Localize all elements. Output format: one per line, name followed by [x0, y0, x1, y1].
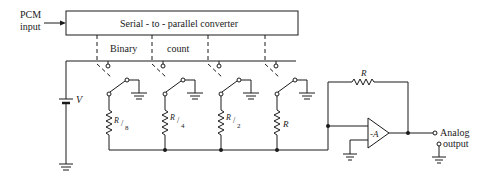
switch-stage-3 [208, 35, 259, 150]
pcm-input-label-2: input [20, 21, 41, 32]
source-voltage-label: V [76, 94, 84, 105]
analog-output-label-1: Analog [440, 127, 469, 138]
resistor-sub-r2: 2 [237, 122, 241, 130]
resistor-sub-r4: 4 [181, 122, 185, 130]
binary-label: Binary [110, 43, 137, 54]
dac-circuit-diagram: PCM input Serial - to - parallel convert… [0, 0, 489, 176]
resistor-label-r: R [282, 119, 289, 129]
opamp-gain-label: -A [370, 129, 379, 139]
resistor-sub-r8: 8 [125, 124, 129, 132]
feedback-resistor-label: R [360, 68, 367, 78]
ground-icon [59, 164, 73, 170]
analog-output-label-2: output [443, 138, 469, 149]
resistor-label-r8: R [113, 116, 119, 125]
resistor-label-r2: R [225, 113, 231, 122]
opamp-icon [343, 118, 437, 160]
switch-stage-4 [265, 35, 315, 150]
converter-label: Serial - to - parallel converter [120, 18, 239, 29]
resistor-slash: / [233, 116, 236, 125]
count-label: count [167, 43, 189, 54]
resistor-slash: / [177, 116, 180, 125]
resistor-slash: / [121, 119, 124, 128]
input-arrow-icon [44, 21, 66, 26]
pcm-input-label-1: PCM [20, 9, 41, 20]
summing-bus [109, 82, 368, 152]
resistor-label-r4: R [169, 113, 175, 122]
battery-icon [59, 61, 73, 164]
